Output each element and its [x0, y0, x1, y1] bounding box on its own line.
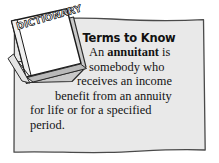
callout-figure: Terms to Know An annuitant is somebody w…	[0, 0, 219, 163]
